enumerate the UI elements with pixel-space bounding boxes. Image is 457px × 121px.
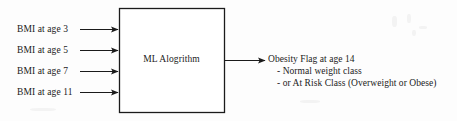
input-label-bmi-age-7: BMI at age 7 (17, 66, 68, 77)
block-diagram-figure: BMI at age 3 BMI at age 5 BMI at age 7 B… (0, 0, 457, 121)
output-label-normal-weight-class: - Normal weight class (277, 66, 362, 78)
input-label-bmi-age-11: BMI at age 11 (17, 87, 73, 98)
input-label-bmi-age-5: BMI at age 5 (17, 45, 68, 56)
input-label-bmi-age-3: BMI at age 3 (17, 24, 68, 35)
diagram-canvas (0, 0, 457, 121)
ml-algorithm-box-label: ML Alogrithm (119, 54, 224, 64)
output-label-obesity-flag: Obesity Flag at age 14 (268, 54, 355, 66)
output-label-at-risk-class: - or At Risk Class (Overweight or Obese) (277, 78, 437, 90)
